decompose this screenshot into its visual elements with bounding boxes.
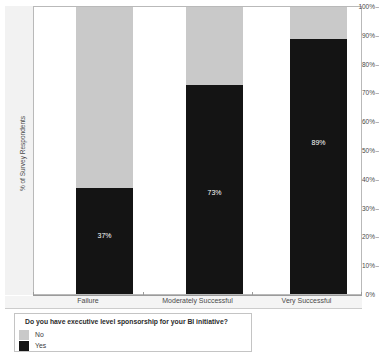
x-axis-tick-mark [143, 292, 144, 296]
x-axis-tick-mark [361, 292, 362, 296]
x-axis-label-failure: Failure [33, 297, 143, 304]
tick-mark-icon: – [375, 147, 379, 154]
bar-data-label: 89% [290, 139, 347, 146]
tick-mark-icon: – [375, 31, 379, 38]
y-axis-tick-label-60: 60% [362, 118, 375, 125]
y-axis-tick-label-0: 0% [366, 291, 375, 298]
bar-group-very-successful[interactable]: 89% [290, 7, 347, 294]
bar-segment-yes[interactable]: 89% [290, 39, 347, 294]
tick-mark-icon: – [375, 204, 379, 211]
bar-group-moderately-successful[interactable]: 73% [186, 7, 243, 294]
y-axis-tick-label-30: 30% [362, 204, 375, 211]
x-axis-label-moderately-successful: Moderately Successful [143, 297, 252, 304]
tick-mark-icon: – [375, 60, 379, 67]
legend-swatch-no-icon [19, 330, 29, 340]
tick-mark-icon: – [375, 233, 379, 240]
bar-segment-no[interactable] [76, 7, 133, 188]
legend-label-no: No [35, 331, 44, 338]
legend-label-yes: Yes [35, 342, 46, 349]
y-axis-tick-label-20: 20% [362, 233, 375, 240]
bar-segment-no[interactable] [290, 7, 347, 39]
tick-mark-icon: – [375, 175, 379, 182]
y-axis-tick-label-90: 90% [362, 31, 375, 38]
tick-mark-icon: – [375, 3, 379, 10]
y-axis-tick-label-70: 70% [362, 89, 375, 96]
stacked-bar-chart: % of Survey Respondents 100%– 90%– 80%– … [0, 0, 379, 360]
legend-swatch-yes-icon [19, 341, 29, 351]
y-axis-tick-label-10: 10% [362, 262, 375, 269]
y-axis-tick-label-80: 80% [362, 60, 375, 67]
tick-mark-icon: – [375, 118, 379, 125]
bar-segment-yes[interactable]: 73% [186, 85, 243, 295]
x-axis-tick-mark [33, 292, 34, 296]
tick-mark-icon: – [375, 89, 379, 96]
tick-mark-icon: – [375, 262, 379, 269]
legend-title: Do you have executive level sponsorship … [25, 318, 228, 325]
x-axis-tick-mark [252, 292, 253, 296]
bars-layer: 37% 73% 89% [34, 7, 361, 294]
bar-group-failure[interactable]: 37% [76, 7, 133, 294]
y-axis-tick-label-40: 40% [362, 175, 375, 182]
bar-segment-no[interactable] [186, 7, 243, 85]
bar-data-label: 37% [76, 232, 133, 239]
bar-segment-yes[interactable]: 37% [76, 188, 133, 294]
y-axis-title: % of Survey Respondents [19, 84, 26, 224]
legend: Do you have executive level sponsorship … [14, 313, 252, 352]
bar-data-label: 73% [186, 189, 243, 196]
y-axis-tick-label-50: 50% [362, 147, 375, 154]
x-axis-label-very-successful: Very Successful [252, 297, 361, 304]
